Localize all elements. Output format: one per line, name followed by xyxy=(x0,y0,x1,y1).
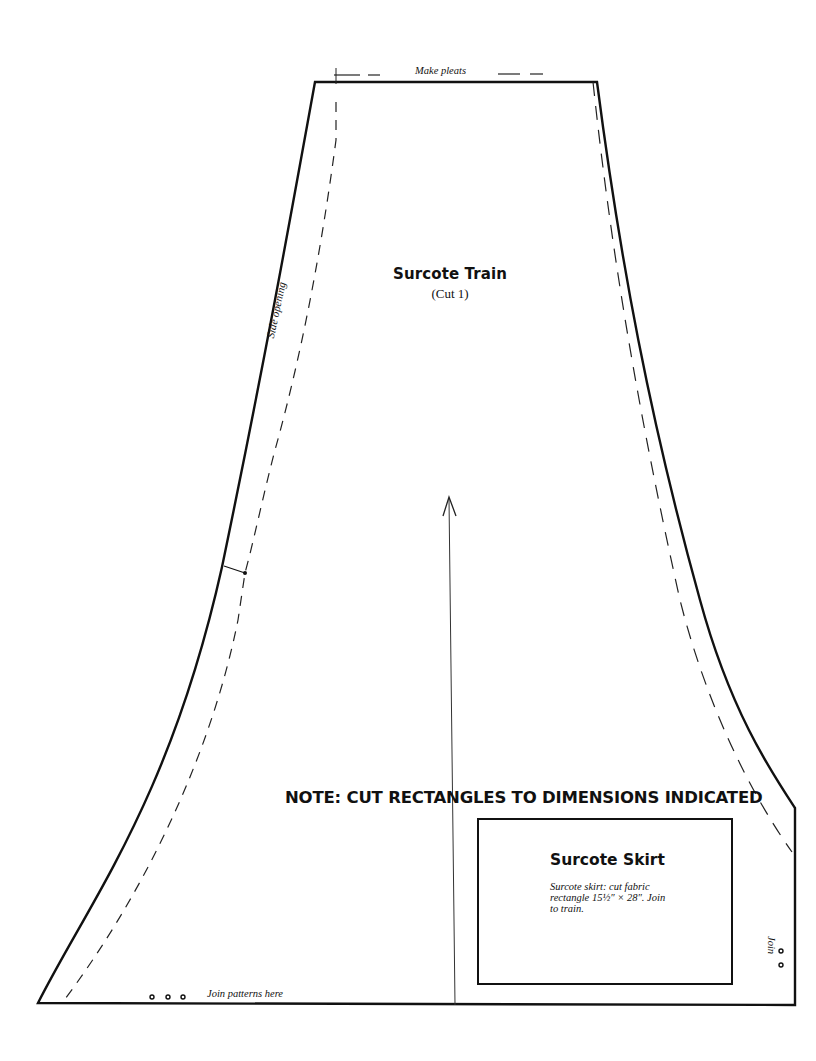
seam-line-left xyxy=(62,102,336,1003)
piece-title: Surcote Train xyxy=(0,267,816,282)
join-label: Join xyxy=(766,936,777,954)
join-patterns-label: Join patterns here xyxy=(207,989,283,1000)
cutting-note: NOTE: CUT RECTANGLES TO DIMENSIONS INDIC… xyxy=(285,790,762,807)
side-opening-dot xyxy=(243,571,247,575)
seam-line-right xyxy=(593,82,792,852)
join-dot xyxy=(150,995,154,999)
cutting-line xyxy=(38,82,795,1005)
skirt-title: Surcote Skirt xyxy=(550,853,665,869)
join-dot xyxy=(181,995,185,999)
skirt-description: Surcote skirt: cut fabric rectangle 15½″… xyxy=(550,881,670,914)
pattern-drawing xyxy=(0,0,816,1061)
piece-cut-count: (Cut 1) xyxy=(0,287,816,300)
pattern-page: Make pleats Surcote Train (Cut 1) Side o… xyxy=(0,0,816,1061)
join-dot xyxy=(779,963,783,967)
join-dot xyxy=(779,949,783,953)
grainline xyxy=(449,498,455,1005)
join-dot xyxy=(166,995,170,999)
side-opening-notch xyxy=(224,566,245,573)
make-pleats-label: Make pleats xyxy=(415,66,466,77)
